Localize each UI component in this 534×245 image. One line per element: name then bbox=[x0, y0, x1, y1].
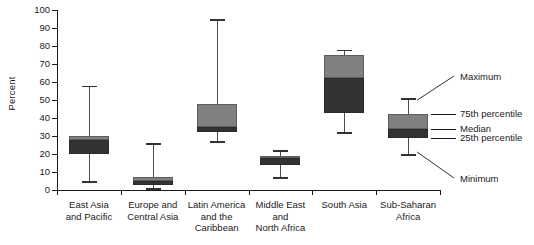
x-tick-mark bbox=[121, 190, 122, 195]
annotation-75th-percentile: 75th percentile bbox=[460, 109, 522, 119]
x-axis-label-line: and the bbox=[185, 211, 249, 223]
y-tick-label: 50 bbox=[22, 95, 50, 105]
annotation-25th-percentile-leader bbox=[431, 138, 456, 139]
whisker-cap-max bbox=[82, 86, 97, 88]
y-tick-label: 20 bbox=[22, 149, 50, 159]
x-axis-label-line: South Asia bbox=[312, 199, 376, 211]
plot-area: Percent 1009080706050403020100 East Asia… bbox=[0, 0, 534, 245]
whisker-cap-min bbox=[146, 188, 161, 190]
y-tick-mark bbox=[52, 100, 57, 101]
y-tick-label: 70 bbox=[22, 59, 50, 69]
whisker-cap-min bbox=[337, 132, 352, 134]
annotation-75th-percentile-leader bbox=[431, 114, 456, 115]
x-tick-mark bbox=[185, 190, 186, 195]
x-axis-label-line: Sub-Saharan bbox=[376, 199, 440, 211]
whisker-cap-min bbox=[401, 154, 416, 156]
y-tick-label: 40 bbox=[22, 113, 50, 123]
whisker-cap-max bbox=[210, 19, 225, 21]
box-lower-quartile bbox=[197, 127, 237, 132]
y-tick-label: 100 bbox=[22, 5, 50, 15]
annotation-maximum: Maximum bbox=[460, 72, 501, 82]
y-tick-mark bbox=[52, 154, 57, 155]
boxplot-figure: Percent 1009080706050403020100 East Asia… bbox=[0, 0, 534, 245]
x-axis-label-line: Latin America bbox=[185, 199, 249, 211]
box-lower-quartile bbox=[69, 140, 109, 154]
box-upper-quartile bbox=[324, 55, 364, 78]
y-tick-mark bbox=[52, 28, 57, 29]
whisker-cap-max bbox=[273, 150, 288, 152]
annotation-minimum: Minimum bbox=[460, 174, 499, 184]
y-tick-mark bbox=[52, 172, 57, 173]
y-tick-label: 30 bbox=[22, 131, 50, 141]
box-lower-quartile bbox=[133, 181, 173, 185]
x-axis-label: Sub-SaharanAfrica bbox=[376, 199, 440, 222]
x-axis-label-line: North Africa bbox=[249, 222, 313, 234]
whisker-cap-max bbox=[337, 50, 352, 52]
x-axis-label: Latin Americaand theCaribbean bbox=[185, 199, 249, 234]
y-tick-label: 60 bbox=[22, 77, 50, 87]
box-lower-quartile bbox=[388, 129, 428, 138]
whisker-line bbox=[89, 86, 90, 181]
whisker-cap-min bbox=[273, 177, 288, 179]
x-axis-label-line: East Asia bbox=[57, 199, 121, 211]
annotation-median-leader bbox=[431, 129, 456, 130]
x-axis-label-line: Africa bbox=[376, 211, 440, 223]
y-tick-mark bbox=[52, 10, 57, 11]
x-axis-label-line: Caribbean bbox=[185, 222, 249, 234]
x-tick-mark bbox=[249, 190, 250, 195]
y-tick-label: 0 bbox=[22, 185, 50, 195]
x-axis-label: East Asiaand Pacific bbox=[57, 199, 121, 222]
x-axis-label-line: Middle East bbox=[249, 199, 313, 211]
box-lower-quartile bbox=[324, 78, 364, 112]
y-tick-mark bbox=[52, 118, 57, 119]
x-tick-mark bbox=[312, 190, 313, 195]
whisker-cap-max bbox=[146, 143, 161, 145]
y-tick-label: 80 bbox=[22, 41, 50, 51]
annotation-25th-percentile: 25th percentile bbox=[460, 133, 522, 143]
y-tick-mark bbox=[52, 82, 57, 83]
y-axis-line bbox=[57, 10, 58, 191]
y-tick-mark bbox=[52, 46, 57, 47]
y-tick-label: 90 bbox=[22, 23, 50, 33]
y-axis-title: Percent bbox=[6, 64, 17, 124]
x-axis-label-line: and bbox=[249, 211, 313, 223]
x-tick-mark bbox=[440, 190, 441, 195]
box-lower-quartile bbox=[260, 158, 300, 165]
y-tick-label: 10 bbox=[22, 167, 50, 177]
y-tick-mark bbox=[52, 64, 57, 65]
x-axis-label: Middle EastandNorth Africa bbox=[249, 199, 313, 234]
x-axis-label: Europe andCentral Asia bbox=[121, 199, 185, 222]
whisker-cap-min bbox=[82, 181, 97, 183]
x-axis-label-line: Central Asia bbox=[121, 211, 185, 223]
whisker-cap-min bbox=[210, 141, 225, 143]
box-upper-quartile bbox=[388, 114, 428, 128]
x-tick-mark bbox=[376, 190, 377, 195]
box-upper-quartile bbox=[197, 104, 237, 127]
x-axis-label: South Asia bbox=[312, 199, 376, 211]
x-tick-mark bbox=[57, 190, 58, 195]
y-tick-mark bbox=[52, 136, 57, 137]
whisker-cap-max bbox=[401, 98, 416, 100]
x-axis-label-line: Europe and bbox=[121, 199, 185, 211]
x-axis-label-line: and Pacific bbox=[57, 211, 121, 223]
